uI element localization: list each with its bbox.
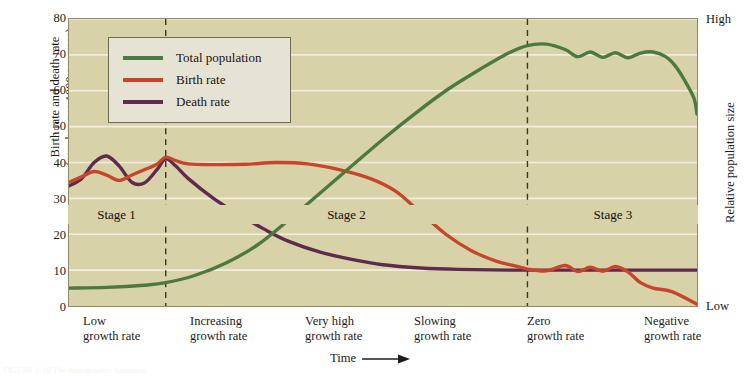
time-arrow-icon: [362, 353, 410, 365]
y-axis-tick-20: 20: [20, 227, 66, 242]
y-axis-tick-80: 80: [20, 11, 66, 26]
growth-rate-label-line1: Very high: [305, 314, 362, 329]
stage-segment-1: Stage 1: [68, 203, 165, 227]
growth-rate-label-line2: growth rate: [644, 329, 701, 344]
growth-rate-label-line2: growth rate: [527, 329, 584, 344]
growth-rate-label-line1: Zero: [527, 314, 584, 329]
y-axis-tick-50: 50: [20, 119, 66, 134]
y-axis-right-low-label: Low: [706, 299, 729, 314]
growth-rate-label-5: Zerogrowth rate: [527, 314, 584, 343]
growth-rate-label-1: Lowgrowth rate: [83, 314, 140, 343]
y-axis-right-title: Relative population size: [723, 83, 738, 243]
y-axis-tick-70: 70: [20, 47, 66, 62]
legend-swatch-icon: [123, 100, 163, 104]
growth-rate-label-line1: Negative: [644, 314, 701, 329]
legend-item-total-population: Total population: [109, 47, 290, 69]
y-axis-right: High Relative population size Low: [702, 0, 749, 376]
stage-segment-2: Stage 2: [165, 203, 528, 227]
legend-item-birth-rate: Birth rate: [109, 69, 290, 91]
stage-label: Stage 1: [68, 205, 165, 224]
legend-swatch-icon: [123, 78, 163, 82]
legend-label: Total population: [176, 50, 261, 66]
growth-rate-label-3: Very highgrowth rate: [305, 314, 362, 343]
figure-caption: FIGURE 1-10 The demographic transition: [3, 366, 146, 375]
y-axis-left: Birth rate and death rate (number per 10…: [14, 0, 66, 376]
y-axis-tick-40: 40: [20, 155, 66, 170]
chart-legend: Total populationBirth rateDeath rate: [108, 37, 291, 123]
y-axis-tick-0: 0: [20, 300, 66, 315]
legend-label: Birth rate: [176, 72, 225, 88]
growth-rate-label-4: Slowinggrowth rate: [414, 314, 471, 343]
stage-label: Stage 2: [165, 205, 528, 224]
stage-segment-3: Stage 3: [528, 203, 698, 227]
growth-rate-label-line2: growth rate: [190, 329, 247, 344]
growth-rate-label-line1: Low: [83, 314, 140, 329]
legend-label: Death rate: [176, 94, 230, 110]
y-axis-right-high-label: High: [706, 12, 731, 27]
growth-rate-label-line2: growth rate: [414, 329, 471, 344]
legend-swatch-icon: [123, 56, 163, 60]
x-axis-time: Time: [330, 351, 410, 366]
figure-container: Birth rate and death rate (number per 10…: [0, 0, 749, 376]
y-axis-tick-60: 60: [20, 83, 66, 98]
growth-rate-label-line2: growth rate: [83, 329, 140, 344]
stage-band: Stage 1Stage 2Stage 3: [68, 203, 698, 227]
y-axis-tick-30: 30: [20, 191, 66, 206]
legend-item-death-rate: Death rate: [109, 91, 290, 113]
growth-rate-label-line1: Increasing: [190, 314, 247, 329]
growth-rate-label-line1: Slowing: [414, 314, 471, 329]
growth-rate-label-6: Negativegrowth rate: [644, 314, 701, 343]
x-axis-time-label: Time: [330, 351, 356, 366]
y-axis-tick-10: 10: [20, 263, 66, 278]
growth-rate-label-line2: growth rate: [305, 329, 362, 344]
growth-rate-label-2: Increasinggrowth rate: [190, 314, 247, 343]
stage-label: Stage 3: [528, 205, 698, 224]
